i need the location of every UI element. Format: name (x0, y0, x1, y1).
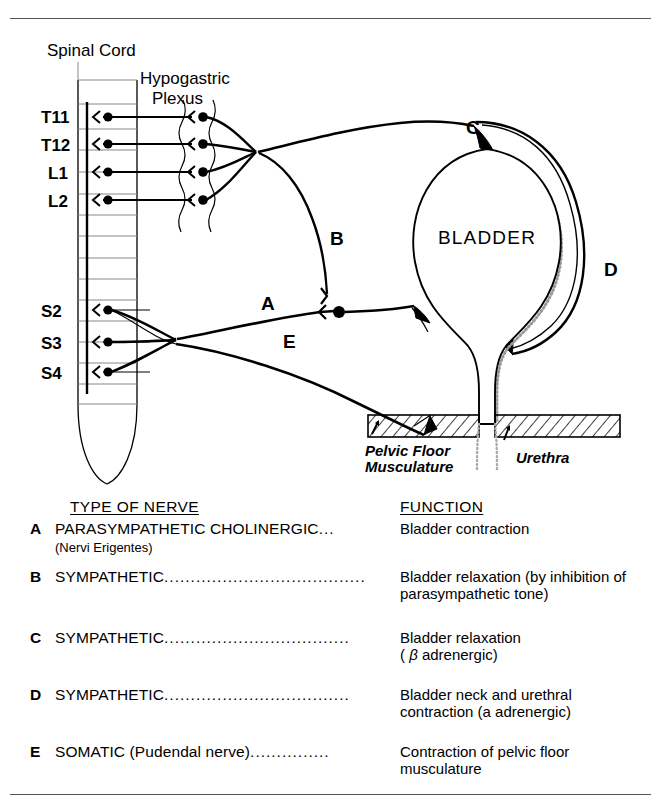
legend-type-text-A: PARASYMPATHETIC CHOLINERGIC (55, 520, 319, 537)
legend-subtype-A: (Nervi Erigentes) (55, 540, 153, 555)
legend-type-C: SYMPATHETIC.............................… (55, 629, 403, 647)
anatomical-diagram: BLADDER Spinal Cord Hypogastric Plexus T… (0, 22, 659, 492)
urethra-group (477, 424, 497, 470)
legend-leader-A: ... (319, 520, 335, 537)
nerve-path-C (258, 122, 494, 152)
plexus-ganglia (188, 111, 208, 206)
nerve-label-A: A (261, 293, 275, 314)
pelvic-ganglion-dot (333, 306, 345, 318)
legend-key-A: A (30, 520, 41, 538)
legend-key-D: D (30, 686, 41, 704)
pelvic-floor-left-band (368, 415, 479, 437)
pelvic-floor-label-line1: Pelvic Floor (365, 442, 451, 459)
legend-function-D: Bladder neck and urethral contraction (a… (400, 686, 655, 720)
legend-type-E: SOMATIC (Pudendal nerve)............... (55, 743, 403, 761)
legend-key-E: E (30, 743, 40, 761)
plexus-wavy-line-left (179, 100, 186, 232)
legend-key-C: C (30, 629, 41, 647)
segment-label-T12: T12 (41, 136, 70, 155)
spinal-cord-group (78, 62, 137, 484)
segment-label-L1: L1 (48, 164, 68, 183)
legend-function-B: Bladder relaxation (by inhibition of par… (400, 568, 655, 602)
urethra-label: Urethra (516, 449, 569, 466)
legend-function-C-line2-pre: ( (400, 646, 409, 663)
nerve-path-A (177, 305, 430, 339)
segment-label-S4: S4 (41, 364, 62, 383)
legend-leader-B: ...................................... (164, 568, 366, 585)
hypogastric-plexus-group (179, 100, 216, 232)
legend-function-E-line2: musculature (400, 760, 482, 777)
bladder-outline (413, 149, 561, 424)
top-border-rule (10, 18, 651, 19)
legend-function-A: Bladder contraction (400, 520, 655, 537)
legend-leader-C: ................................... (164, 629, 350, 646)
legend-type-text-C: SYMPATHETIC (55, 629, 164, 646)
legend-function-D-line2: contraction (a adrenergic) (400, 703, 571, 720)
legend-function-C-greek: β (409, 646, 418, 663)
legend-function-C-line2-post: adrenergic) (418, 646, 498, 663)
legend-type-D: SYMPATHETIC.............................… (55, 686, 403, 704)
legend-leader-D: ................................... (164, 686, 350, 703)
pelvic-floor-label-line2: Musculature (365, 458, 453, 475)
legend-function-C: Bladder relaxation ( β adrenergic) (400, 629, 655, 663)
legend-function-C-line1: Bladder relaxation (400, 629, 521, 646)
legend-type-text-D: SYMPATHETIC (55, 686, 164, 703)
legend-type-A: PARASYMPATHETIC CHOLINERGIC... (55, 520, 403, 538)
segment-label-S2: S2 (41, 302, 62, 321)
hypogastric-plexus-label-line1: Hypogastric (140, 69, 230, 88)
legend-header-type: TYPE OF NERVE (70, 498, 199, 516)
nerve-label-B: B (330, 228, 344, 249)
segment-label-S3: S3 (41, 334, 62, 353)
nerve-label-D: D (604, 259, 618, 280)
nerve-legend-table: TYPE OF NERVE FUNCTION A PARASYMPATHETIC… (0, 492, 659, 792)
hypogastric-plexus-label-line2: Plexus (152, 89, 203, 108)
legend-function-E: Contraction of pelvic floor musculature (400, 743, 655, 777)
legend-function-D-line1: Bladder neck and urethral (400, 686, 572, 703)
segment-label-T11: T11 (41, 108, 69, 127)
bladder-label: BLADDER (438, 227, 536, 248)
bladder-group: BLADDER (413, 149, 561, 424)
nerve-label-E: E (283, 331, 296, 352)
nerve-path-B (259, 153, 327, 304)
legend-function-E-line1: Contraction of pelvic floor (400, 743, 569, 760)
legend-type-text-B: SYMPATHETIC (55, 568, 164, 585)
pelvic-floor-right-band (495, 415, 620, 437)
diagram-svg: BLADDER Spinal Cord Hypogastric Plexus T… (0, 22, 659, 492)
segment-label-L2: L2 (48, 192, 68, 211)
legend-type-text-E: SOMATIC (Pudendal nerve) (55, 743, 250, 760)
bottom-border-rule (10, 794, 651, 795)
spinal-cord-label: Spinal Cord (47, 41, 136, 60)
legend-type-B: SYMPATHETIC.............................… (55, 568, 403, 586)
legend-header-function: FUNCTION (400, 498, 483, 516)
legend-key-B: B (30, 568, 41, 586)
nerve-label-C: C (466, 117, 480, 138)
legend-leader-E: ............... (250, 743, 330, 760)
